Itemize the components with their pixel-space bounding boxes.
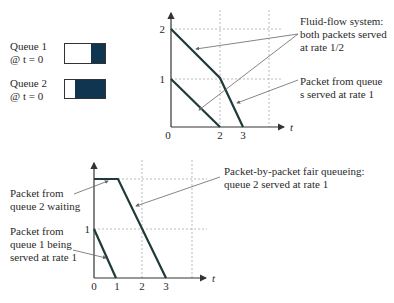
bottom-fair-arrow (136, 177, 220, 206)
top-y-tick-1: 1 (160, 73, 166, 85)
fair-line-1: Packet-by-packet fair queueing: (224, 165, 365, 178)
queue-s-line-2: s served at rate 1 (300, 88, 382, 101)
bottom-x-tick-2: 2 (139, 280, 145, 292)
fair-line-2: queue 2 served at rate 1 (224, 178, 365, 191)
top-y-tick-2: 2 (160, 23, 166, 35)
waiting-line-1: Packet from (10, 187, 80, 200)
waiting-annotation: Packet from queue 2 waiting (10, 187, 80, 213)
served-line-2: queue 1 being (10, 238, 77, 251)
bottom-chart: 0 1 2 3 1 t (73, 160, 220, 292)
bottom-grid (94, 160, 207, 278)
top-axis-t-label: t (290, 121, 294, 133)
bottom-served-arrow (73, 250, 106, 258)
bottom-queue1-curve (94, 229, 116, 278)
fluid-line-2: both packets served (300, 28, 387, 41)
bottom-x-tick-3: 3 (163, 280, 169, 292)
bottom-x-tick-0: 0 (91, 280, 97, 292)
queue-s-annotation: Packet from queue s served at rate 1 (300, 75, 382, 101)
bottom-axis-t-label: t (212, 272, 216, 284)
bottom-y-tick-1: 1 (85, 223, 91, 235)
fluid-line-3: at rate 1/2 (300, 41, 387, 54)
waiting-line-2: queue 2 waiting (10, 200, 80, 213)
served-line-3: served at rate 1 (10, 251, 77, 264)
top-queue1-curve (171, 79, 220, 127)
queue-s-line-1: Packet from queue (300, 75, 382, 88)
served-annotation: Packet from queue 1 being served at rate… (10, 225, 77, 264)
fluid-flow-annotation: Fluid-flow system: both packets served a… (300, 15, 387, 54)
top-queue-arrow (237, 80, 298, 103)
top-x-tick-3: 3 (240, 129, 246, 141)
fair-queueing-annotation: Packet-by-packet fair queueing: queue 2 … (224, 165, 365, 191)
fluid-line-1: Fluid-flow system: (300, 15, 387, 28)
top-fluid-arrow-1 (196, 34, 298, 49)
served-line-1: Packet from (10, 225, 77, 238)
top-grid (171, 10, 282, 127)
top-x-tick-2: 2 (217, 129, 223, 141)
bottom-x-tick-1: 1 (114, 280, 120, 292)
top-x-tick-0: 0 (165, 129, 171, 141)
top-chart: 0 2 3 1 2 t (160, 10, 299, 141)
bottom-queue2-curve (94, 179, 166, 278)
